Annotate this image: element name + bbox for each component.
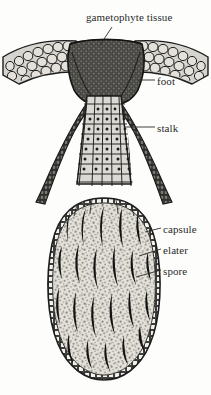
- label-capsule: capsule: [163, 224, 197, 235]
- capsule-shape: [48, 198, 160, 380]
- label-gametophyte-tissue: gametophyte tissue: [86, 12, 172, 23]
- label-stalk: stalk: [157, 123, 178, 134]
- liverwort-sporophyte-figure: gametophyte tissue foot stalk capsule el…: [0, 0, 211, 395]
- foot-shape: [68, 40, 144, 105]
- label-spore: spore: [163, 266, 187, 277]
- label-elater: elater: [163, 245, 188, 256]
- label-foot: foot: [157, 76, 175, 87]
- sporophyte-illustration: [0, 0, 211, 395]
